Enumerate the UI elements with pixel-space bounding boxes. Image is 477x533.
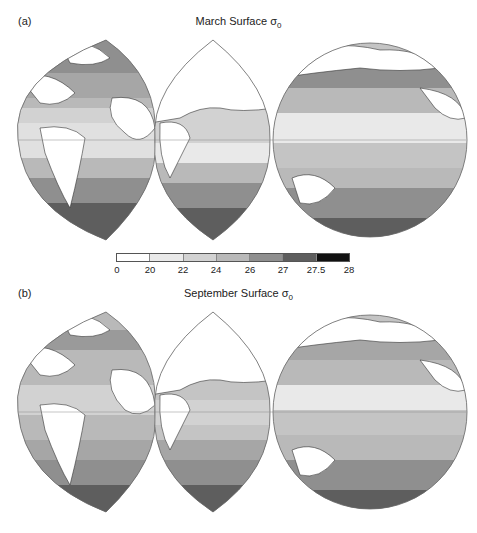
colorbar-swatch [283,254,316,261]
panel-b-title: September Surface σ0 [0,287,477,302]
colorbar-swatch [184,254,217,261]
march-map [0,38,477,248]
panel-a-title: March Surface σ0 [0,15,477,30]
colorbar-swatch [250,254,283,261]
colorbar-ticks: 0 20 22 24 26 27 27.5 28 [0,264,477,278]
september-map [0,310,477,520]
colorbar-swatch [317,254,349,261]
colorbar [116,253,350,262]
colorbar-swatch [150,254,183,261]
colorbar-swatch [117,254,150,261]
colorbar-swatch [217,254,250,261]
